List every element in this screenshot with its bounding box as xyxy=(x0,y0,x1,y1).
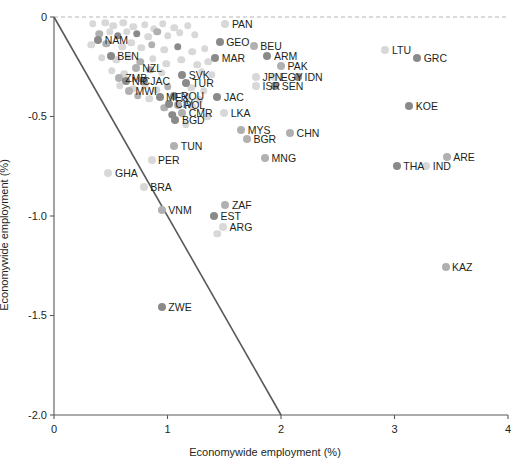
y-tick-label: -0.5 xyxy=(0,111,47,122)
data-point xyxy=(393,162,401,170)
data-point-unlabeled xyxy=(148,41,156,49)
data-point xyxy=(210,212,218,220)
point-label: ARG xyxy=(230,222,253,233)
x-tick-label: 2 xyxy=(267,424,295,435)
data-point-unlabeled xyxy=(154,28,162,36)
data-point xyxy=(442,263,450,271)
y-tick-label: -1.5 xyxy=(0,310,47,321)
data-point xyxy=(213,93,221,101)
point-label: MNG xyxy=(272,153,297,164)
data-point-unlabeled xyxy=(214,230,222,238)
y-tick-label: -2.0 xyxy=(0,410,47,421)
x-axis-title: Economywide employment (%) xyxy=(189,447,341,458)
data-point xyxy=(211,54,219,62)
data-point xyxy=(107,52,115,60)
data-point-unlabeled xyxy=(98,54,106,62)
data-point-unlabeled xyxy=(184,22,192,30)
data-point xyxy=(221,201,229,209)
point-label: JAC xyxy=(224,91,244,102)
data-point xyxy=(94,36,102,44)
data-point-unlabeled xyxy=(108,67,116,75)
data-point-unlabeled xyxy=(191,31,199,39)
data-point-unlabeled xyxy=(201,45,209,53)
data-point-unlabeled xyxy=(163,60,171,68)
data-point xyxy=(170,142,178,150)
data-point xyxy=(140,183,148,191)
data-point-unlabeled xyxy=(101,19,109,27)
point-label: KOE xyxy=(416,100,438,111)
data-point xyxy=(148,156,156,164)
data-point xyxy=(405,102,413,110)
data-point xyxy=(220,109,228,117)
data-point-unlabeled xyxy=(141,21,149,29)
point-label: BGD xyxy=(182,115,205,126)
data-point xyxy=(277,62,285,70)
data-point xyxy=(381,46,389,54)
point-label: BEN xyxy=(117,51,139,62)
data-point-unlabeled xyxy=(159,20,167,28)
data-point xyxy=(252,73,260,81)
data-point xyxy=(125,87,133,95)
point-label: MAR xyxy=(222,53,245,64)
data-point xyxy=(221,20,229,28)
point-label: SEN xyxy=(282,80,304,91)
x-tick-label: 4 xyxy=(494,424,522,435)
data-point-unlabeled xyxy=(133,30,141,38)
data-point-unlabeled xyxy=(174,43,182,51)
point-label: BRA xyxy=(150,182,172,193)
data-point-unlabeled xyxy=(144,33,152,41)
data-point xyxy=(413,54,421,62)
point-label: EST xyxy=(221,211,241,222)
point-label: PAN xyxy=(232,19,253,30)
point-label: TUR xyxy=(192,77,214,88)
data-point-unlabeled xyxy=(189,48,197,56)
data-point-unlabeled xyxy=(119,19,127,27)
data-point-unlabeled xyxy=(89,20,97,28)
data-point xyxy=(219,223,227,231)
point-label: TUN xyxy=(181,141,203,152)
data-point-unlabeled xyxy=(177,56,185,64)
data-point xyxy=(243,135,251,143)
y-axis-title: Economywide employment (%) xyxy=(0,159,10,311)
point-label: NAM xyxy=(105,35,128,46)
data-point xyxy=(263,52,271,60)
point-label: BGR xyxy=(253,134,276,145)
data-point xyxy=(158,206,166,214)
scatter-chart: PANGEOBEUNAMBENARMMARNZLPAKLTUGRCZMBNICJ… xyxy=(0,0,530,470)
point-label: CHN xyxy=(297,128,320,139)
data-point xyxy=(250,42,258,50)
point-label: MWI xyxy=(135,85,157,96)
data-point xyxy=(158,303,166,311)
point-label: IND xyxy=(433,161,451,172)
data-point-unlabeled xyxy=(127,39,135,47)
point-label: PER xyxy=(158,155,180,166)
point-label: GHA xyxy=(115,168,138,179)
data-point-unlabeled xyxy=(176,29,184,37)
point-label: IDN xyxy=(305,71,323,82)
point-label: KAZ xyxy=(452,261,472,272)
x-tick-label: 0 xyxy=(40,424,68,435)
point-label: GEO xyxy=(226,37,249,48)
point-label: ARE xyxy=(453,152,475,163)
point-label: ISR xyxy=(263,80,281,91)
point-label: VNM xyxy=(168,205,191,216)
data-point-unlabeled xyxy=(164,32,172,40)
data-point xyxy=(252,82,260,90)
point-label: THA xyxy=(403,161,424,172)
data-point xyxy=(171,116,179,124)
point-label: ZAF xyxy=(232,200,252,211)
data-point xyxy=(178,71,186,79)
point-label: ZWE xyxy=(168,301,191,312)
x-tick-label: 1 xyxy=(154,424,182,435)
point-label: GRC xyxy=(424,53,447,64)
data-point xyxy=(237,126,245,134)
data-point xyxy=(261,154,269,162)
x-tick-label: 3 xyxy=(381,424,409,435)
point-label: PAK xyxy=(288,61,308,72)
point-label: LKA xyxy=(231,107,251,118)
data-point-unlabeled xyxy=(160,46,168,54)
data-point xyxy=(286,129,294,137)
point-label: LTU xyxy=(392,45,411,56)
y-tick-label: 0 xyxy=(0,12,47,23)
data-point xyxy=(216,38,224,46)
